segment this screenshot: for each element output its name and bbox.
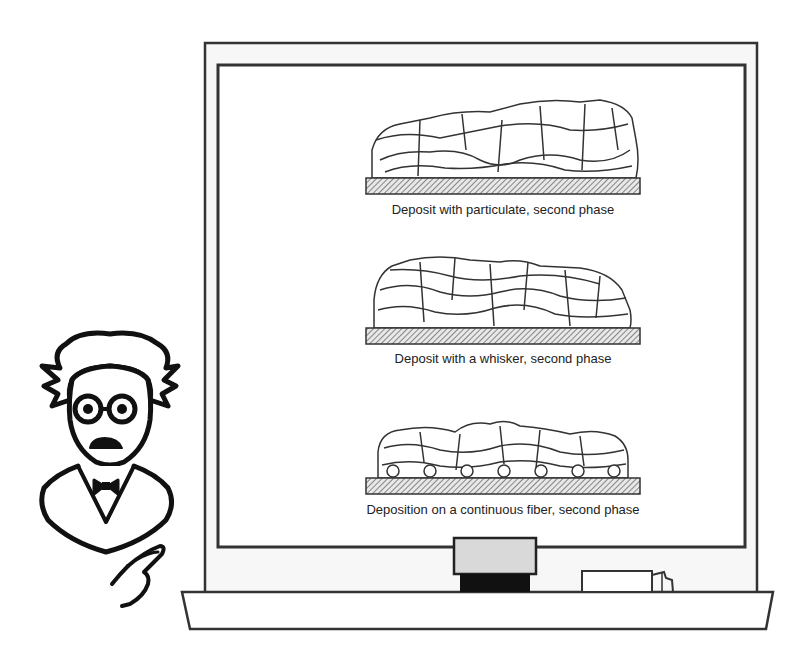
professor-icon	[42, 333, 178, 606]
whiteboard-illustration	[0, 0, 797, 657]
caption-continuous-fiber: Deposition on a continuous fiber, second…	[330, 502, 676, 517]
board-tray	[182, 592, 773, 629]
diagram-continuous-fiber	[366, 421, 640, 494]
caption-whisker: Deposit with a whisker, second phase	[366, 351, 640, 366]
eraser-icon	[454, 538, 536, 592]
caption-particulate: Deposit with particulate, second phase	[366, 202, 640, 217]
